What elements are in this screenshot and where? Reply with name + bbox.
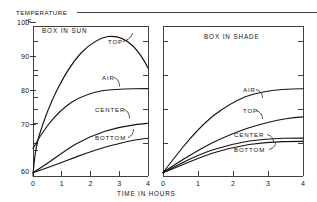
xtick-label-left-0: 0	[31, 180, 35, 188]
right-leader-center	[267, 135, 274, 143]
ytick-label-60: 60	[21, 168, 29, 176]
ytick-label-100: 100	[17, 19, 29, 27]
curve-left-bottom	[33, 138, 148, 172]
right-panel-curves	[163, 89, 303, 173]
xtick-label-right-2: 2	[231, 180, 235, 188]
xtick-label-right-4: 4	[301, 180, 305, 188]
left-series-label-air: AIR	[102, 74, 115, 81]
chart-title: TEMPERATURE	[16, 9, 67, 16]
curve-right-air	[163, 89, 303, 173]
right-series-label-air: AIR	[243, 86, 256, 93]
left-panel-title: BOX IN SUN	[42, 27, 87, 34]
curve-left-center	[33, 123, 148, 172]
ytick-label-80: 80	[21, 87, 29, 95]
curve-left-top	[33, 36, 148, 176]
left-series-label-bottom: BOTTOM	[95, 134, 126, 141]
xtick-label-right-0: 0	[161, 180, 165, 188]
xtick-label-right-3: 3	[266, 180, 270, 188]
xtick-label-right-1: 1	[196, 180, 200, 188]
left-series-label-center: CENTER	[95, 106, 125, 113]
right-series-label-center: CENTER	[234, 131, 264, 138]
left-leader-air	[114, 78, 120, 87]
ytick-label-90: 90	[21, 53, 29, 61]
curve-right-center	[163, 138, 303, 173]
right-panel: BOX IN SHADE	[163, 26, 303, 176]
x-axis-label: TIME IN HOURS	[117, 190, 176, 197]
temperature-chart-figure: TEMPERATURE °F BOX IN SUN 100 90 80 70 6	[0, 0, 317, 202]
xtick-label-left-4: 4	[146, 180, 150, 188]
right-series-label-top: TOP	[243, 107, 258, 114]
right-leader-bottom	[269, 143, 276, 150]
left-panel-curves	[33, 36, 148, 176]
xtick-label-left-3: 3	[117, 180, 121, 188]
left-panel: BOX IN SUN	[33, 26, 148, 176]
chart-canvas: TEMPERATURE °F BOX IN SUN 100 90 80 70 6	[0, 0, 317, 202]
xtick-label-left-1: 1	[60, 180, 64, 188]
right-panel-title: BOX IN SHADE	[204, 33, 260, 40]
left-leader-top	[123, 33, 133, 42]
left-leader-bottom	[128, 129, 134, 138]
xtick-label-left-2: 2	[88, 180, 92, 188]
left-series-label-top: TOP	[108, 38, 123, 45]
curve-left-air	[33, 89, 148, 149]
ytick-label-70: 70	[21, 121, 29, 129]
right-series-label-bottom: BOTTOM	[234, 146, 265, 153]
